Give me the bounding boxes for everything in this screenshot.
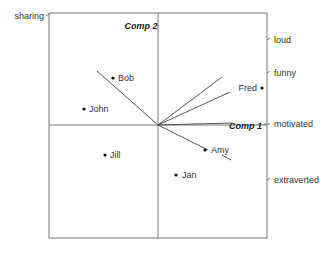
fred-point <box>260 86 263 89</box>
jill-point <box>103 153 106 156</box>
funny-loading-line <box>158 92 230 125</box>
extraverted-label: extraverted <box>274 175 319 185</box>
john-point <box>82 107 85 110</box>
funny-label: funny <box>274 68 297 78</box>
bob-label: Bob <box>118 73 134 83</box>
extraverted-loading-line <box>158 125 208 150</box>
biplot-chart: Comp 2 Comp 1 sharing loud funny motivat… <box>0 0 335 256</box>
jan-point <box>174 173 177 176</box>
comp2-label: Comp 2 <box>124 21 157 31</box>
jill-label: Jill <box>110 150 121 160</box>
motivated-label: motivated <box>274 119 313 129</box>
john-label: John <box>89 104 109 114</box>
extraverted-loading-line-end <box>222 155 231 160</box>
fred-label: Fred <box>238 83 257 93</box>
sharing-label: sharing <box>14 11 44 21</box>
comp1-label: Comp 1 <box>229 121 262 131</box>
amy-label: Amy <box>211 145 230 155</box>
amy-point <box>203 148 206 151</box>
jan-label: Jan <box>182 170 197 180</box>
bob-point <box>111 76 114 79</box>
loud-label: loud <box>274 35 291 45</box>
loud-loading-line <box>158 77 222 125</box>
